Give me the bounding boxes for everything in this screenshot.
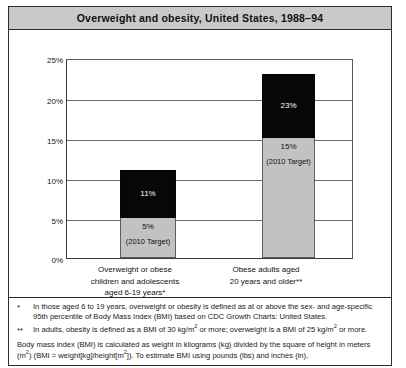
footnote-double-asterisk-marker: **	[17, 325, 33, 337]
footnote-single-asterisk-marker: *	[17, 302, 33, 314]
ytick-label-5: 5%	[51, 217, 63, 226]
footnotes-panel: * In those aged 6 to 19 years, overweigh…	[8, 298, 392, 366]
bar-adults-target-sublabel: (2010 Target)	[266, 157, 310, 166]
bar-adults: 23% 15% (2010 Target)	[262, 74, 315, 258]
ytick-label-25: 25%	[47, 56, 63, 65]
category-label-adults: Obese adults aged 20 years and older**	[201, 264, 331, 287]
ytick-label-15: 15%	[47, 137, 63, 146]
footnote-double-asterisk-text: In adults, obesity is defined as a BMI o…	[33, 325, 383, 335]
figure-container: Overweight and obesity, United States, 1…	[8, 6, 392, 366]
page-title: Overweight and obesity, United States, 1…	[77, 12, 324, 24]
bar-children-target-segment: 5% (2010 Target)	[120, 218, 176, 258]
bar-adults-total-segment: 23%	[262, 74, 315, 138]
ytick-label-0: 0%	[51, 256, 63, 265]
bar-adults-target-segment: 15% (2010 Target)	[262, 138, 315, 258]
bar-children-total-label: 11%	[140, 189, 155, 200]
footnote-double-asterisk: ** In adults, obesity is defined as a BM…	[17, 325, 383, 337]
category-label-children: Overweight or obese children and adolesc…	[65, 264, 205, 299]
category-label-children-line1: Overweight or obese	[65, 264, 205, 276]
bar-children: 11% 5% (2010 Target)	[120, 170, 176, 258]
footnote-single-asterisk-text: In those aged 6 to 19 years, overweight …	[33, 302, 383, 323]
chart-panel: 25% 20% 15% 10% 5% 0% 11%	[8, 30, 392, 298]
bar-adults-total-label: 23%	[280, 101, 296, 112]
ytick-label-20: 20%	[47, 97, 63, 106]
bar-children-total-segment: 11%	[120, 170, 176, 218]
chart-title-banner: Overweight and obesity, United States, 1…	[8, 6, 392, 30]
category-label-children-line2: children and adolescents	[65, 276, 205, 288]
footnote-single-asterisk: * In those aged 6 to 19 years, overweigh…	[17, 302, 383, 323]
bar-children-target-label: 5%	[142, 222, 154, 233]
category-label-adults-line2: 20 years and older**	[201, 276, 331, 288]
plot-area: 25% 20% 15% 10% 5% 0% 11%	[66, 59, 353, 259]
bar-adults-target-label: 15%	[280, 142, 296, 153]
category-label-adults-line1: Obese adults aged	[201, 264, 331, 276]
ytick-label-10: 10%	[47, 177, 63, 186]
bmi-explanation-text: Body mass index (BMI) is calculated as w…	[17, 340, 383, 361]
bar-children-target-sublabel: (2010 Target)	[126, 237, 170, 246]
